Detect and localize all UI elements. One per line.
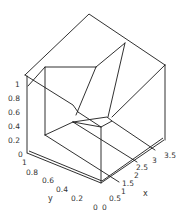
x-tick-2.5: 2.5 [136, 163, 148, 172]
y-tick-0: 0 [93, 203, 98, 212]
y-tick-0.6: 0.6 [42, 176, 54, 185]
y-tick-0.4: 0.4 [56, 185, 68, 194]
y-tick-0.2: 0.2 [71, 194, 83, 203]
z-axis-ticks: 1 0.8 0.6 0.4 0.2 0 [8, 80, 23, 159]
x-tick-0: 0 [102, 203, 107, 212]
y-tick-0.8: 0.8 [26, 168, 38, 177]
y-tick-1: 1 [22, 158, 27, 167]
x-tick-1: 1 [121, 187, 126, 196]
z-tick-0.4: 0.4 [8, 122, 20, 131]
y-axis-label: y [48, 194, 53, 203]
x-tick-2: 2 [134, 171, 139, 180]
plot-3d: 1 0.8 0.6 0.4 0.2 0 1 0.8 0.6 0.4 0.2 0 … [0, 0, 186, 224]
x-tick-1.5: 1.5 [122, 179, 134, 188]
x-tick-0.5: 0.5 [109, 194, 121, 203]
x-tick-3: 3 [152, 156, 157, 165]
x-tick-3.5: 3.5 [164, 151, 176, 160]
z-tick-0.6: 0.6 [8, 108, 20, 117]
z-tick-0.2: 0.2 [8, 136, 20, 145]
x-axis-label: x [143, 189, 148, 198]
x-axis-ticks: 0 0.5 1 1.5 2 2.5 3 3.5 x [102, 151, 176, 212]
z-tick-0.8: 0.8 [8, 94, 20, 103]
z-tick-1: 1 [15, 80, 20, 89]
